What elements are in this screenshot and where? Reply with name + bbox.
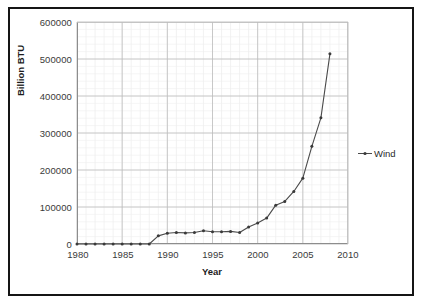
plot-area <box>77 22 348 244</box>
x-tick-label: 1980 <box>58 249 98 260</box>
y-tick-label: 500000 <box>40 54 72 65</box>
x-tick-label: 1985 <box>103 249 143 260</box>
x-tick-label: 1995 <box>193 249 233 260</box>
x-axis-title: Year <box>0 266 424 277</box>
chart-page: 600000 500000 400000 300000 200000 10000… <box>0 0 424 306</box>
y-tick-label: 200000 <box>40 165 72 176</box>
x-tick-label: 2000 <box>238 249 278 260</box>
y-axis-title: Billion BTU <box>15 45 26 96</box>
y-tick-label: 300000 <box>40 128 72 139</box>
legend: Wind <box>358 148 396 159</box>
x-tick-label: 1990 <box>148 249 188 260</box>
legend-label-wind: Wind <box>374 148 396 159</box>
x-tick-label: 2005 <box>283 249 323 260</box>
y-tick-label: 600000 <box>40 17 72 28</box>
x-tick-label: 2010 <box>328 249 368 260</box>
y-tick-label: 100000 <box>40 202 72 213</box>
chart-figure: 600000 500000 400000 300000 200000 10000… <box>0 0 424 306</box>
series-wind <box>77 22 348 244</box>
legend-marker-icon <box>358 149 372 158</box>
y-tick-label: 400000 <box>40 91 72 102</box>
